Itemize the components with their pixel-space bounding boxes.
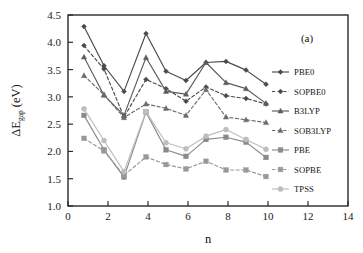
x-tick-label: 0 — [65, 210, 71, 222]
data-point-marker — [81, 106, 86, 111]
legend-label: SOPBE0 — [294, 87, 326, 97]
x-tick-label: 10 — [263, 210, 275, 222]
y-tick-label: 3.5 — [47, 64, 61, 76]
data-point-marker — [82, 136, 87, 141]
y-tick-label: 4.0 — [47, 36, 61, 48]
y-tick-label: 1.5 — [47, 173, 61, 185]
x-tick-label: 14 — [343, 210, 355, 222]
data-point-marker — [164, 69, 169, 74]
data-point-marker — [224, 168, 229, 173]
legend-item-tpss[interactable]: TPSS — [272, 184, 314, 194]
series-sopbe0 — [82, 43, 269, 119]
x-tick-label: 12 — [303, 210, 314, 222]
data-point-marker — [143, 101, 148, 106]
data-point-marker — [278, 70, 283, 75]
data-point-marker — [144, 77, 149, 82]
x-tick-label: 4 — [145, 210, 151, 222]
series-pbe — [82, 110, 269, 180]
data-point-marker — [143, 109, 148, 114]
legend-item-sopbe0[interactable]: SOPBE0 — [272, 87, 326, 97]
data-point-marker — [224, 59, 229, 64]
legend-item-b3lyp[interactable]: B3LYP — [272, 106, 320, 116]
series-sob3lyp — [81, 73, 268, 125]
data-point-marker — [264, 174, 269, 179]
data-point-marker — [163, 140, 168, 145]
y-tick-label: 2.5 — [47, 118, 61, 130]
x-axis-title: n — [205, 232, 212, 246]
figure-panel-a: 024681012141.01.52.02.53.03.54.04.5nΔEga… — [0, 0, 363, 253]
data-point-marker — [164, 162, 169, 167]
data-point-marker — [223, 114, 228, 119]
legend-item-pbe[interactable]: PBE — [272, 145, 310, 155]
line-chart: 024681012141.01.52.02.53.03.54.04.5nΔEga… — [0, 0, 363, 253]
data-point-marker — [82, 113, 87, 118]
y-tick-label: 1.0 — [47, 200, 61, 212]
panel-label: (a) — [301, 32, 314, 45]
data-point-marker — [81, 73, 86, 78]
data-point-marker — [203, 134, 208, 139]
legend-label: PBE — [294, 145, 310, 155]
series-line — [84, 138, 266, 176]
x-tick-label: 2 — [105, 210, 111, 222]
data-point-marker — [204, 159, 209, 164]
series-line — [84, 57, 266, 115]
x-tick-label: 6 — [185, 210, 191, 222]
data-point-marker — [144, 31, 149, 36]
data-point-marker — [278, 148, 283, 153]
data-point-marker — [143, 55, 148, 60]
data-point-marker — [263, 147, 268, 152]
data-point-marker — [164, 147, 169, 152]
legend-item-sob3lyp[interactable]: SOB3LYP — [272, 126, 331, 136]
legend-label: TPSS — [294, 184, 314, 194]
series-line — [84, 112, 266, 177]
series-line — [84, 76, 266, 123]
y-axis-title: ΔEgap (eV) — [9, 84, 25, 137]
series-line — [84, 46, 266, 117]
y-tick-label: 2.0 — [47, 145, 61, 157]
y-tick-label: 3.0 — [47, 91, 61, 103]
data-point-marker — [183, 146, 188, 151]
series-b3lyp — [81, 54, 268, 117]
data-point-marker — [102, 149, 107, 154]
data-point-marker — [278, 186, 283, 191]
data-point-marker — [81, 54, 86, 59]
data-point-marker — [243, 137, 248, 142]
data-point-marker — [278, 89, 283, 94]
data-point-marker — [184, 154, 189, 159]
series-line — [84, 26, 266, 91]
data-point-marker — [101, 138, 106, 143]
legend-item-sopbe[interactable]: SOPBE — [272, 165, 321, 175]
data-point-marker — [278, 167, 283, 172]
legend-label: B3LYP — [294, 106, 320, 116]
data-point-marker — [264, 155, 269, 160]
data-point-marker — [184, 167, 189, 172]
data-point-marker — [223, 127, 228, 132]
data-point-marker — [244, 168, 249, 173]
legend-label: PBE0 — [294, 67, 314, 77]
data-point-marker — [224, 93, 229, 98]
legend-item-pbe0[interactable]: PBE0 — [272, 67, 314, 77]
x-tick-label: 8 — [225, 210, 231, 222]
data-point-marker — [121, 169, 126, 174]
data-point-marker — [144, 155, 149, 160]
data-point-marker — [82, 24, 87, 29]
y-tick-label: 4.5 — [47, 9, 61, 21]
data-point-marker — [224, 135, 229, 140]
legend-label: SOPBE — [294, 165, 321, 175]
data-point-marker — [244, 96, 249, 101]
legend-label: SOB3LYP — [294, 126, 331, 136]
